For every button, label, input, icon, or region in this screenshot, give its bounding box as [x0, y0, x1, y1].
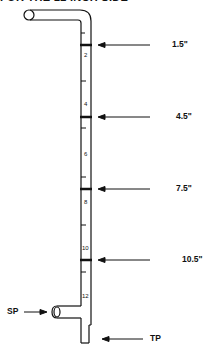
scale-number-10: 10: [82, 245, 89, 251]
side-port-label: SP: [7, 306, 18, 316]
scale-number-6: 6: [84, 151, 87, 157]
depth-label-7-5: 7.5": [176, 183, 192, 193]
tip-port-label: TP: [150, 333, 161, 343]
depth-label-4-5: 4.5": [176, 111, 192, 121]
depth-label-10-5: 10.5": [182, 254, 203, 264]
top-tube-inner: [30, 20, 81, 23]
top-tube-opening: [24, 10, 34, 20]
scale-number-12: 12: [82, 293, 89, 299]
depth-label-1-5: 1.5": [172, 39, 188, 49]
scale-number-8: 8: [84, 199, 87, 205]
top-tube-outer: [30, 10, 91, 21]
scale-number-2: 2: [84, 52, 87, 58]
manometer-tube-diagram: [0, 0, 209, 350]
scale-number-4: 4: [84, 101, 87, 107]
